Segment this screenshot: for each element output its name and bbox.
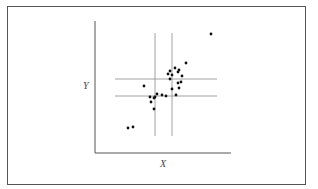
data-point — [127, 127, 130, 130]
data-point — [165, 95, 168, 98]
y-axis-label: Y — [83, 80, 90, 91]
data-point — [177, 82, 180, 85]
data-point — [174, 67, 177, 70]
data-point — [132, 126, 135, 129]
data-point — [169, 70, 172, 73]
data-point — [210, 33, 213, 36]
scatter-figure: Y X — [0, 0, 318, 189]
x-axis-label: X — [159, 158, 167, 169]
data-point — [150, 101, 153, 104]
data-point — [167, 73, 170, 76]
data-point — [177, 71, 180, 74]
data-point — [175, 94, 178, 97]
data-point — [169, 78, 172, 81]
data-point — [185, 62, 188, 65]
data-points — [127, 33, 213, 130]
data-point — [143, 85, 146, 88]
data-point — [171, 74, 174, 77]
data-point — [153, 108, 156, 111]
data-point — [153, 97, 156, 100]
data-point — [178, 87, 181, 90]
data-point — [156, 93, 159, 96]
data-point — [180, 81, 183, 84]
data-point — [149, 96, 152, 99]
data-point — [181, 75, 184, 78]
data-point — [171, 88, 174, 91]
figure-frame — [8, 7, 306, 185]
data-point — [161, 94, 164, 97]
reference-lines — [115, 33, 217, 136]
